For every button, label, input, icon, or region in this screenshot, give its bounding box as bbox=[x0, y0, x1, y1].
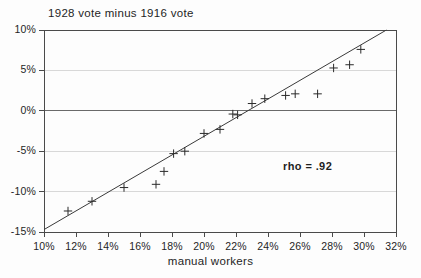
y-tick-label: 5% bbox=[2, 63, 36, 75]
y-tick-label: 10% bbox=[2, 23, 36, 35]
trend-line bbox=[44, 30, 386, 230]
data-point-marker bbox=[181, 147, 189, 155]
x-tick-label: 10% bbox=[27, 240, 61, 252]
data-point-marker bbox=[345, 61, 353, 69]
data-point-marker bbox=[329, 64, 337, 72]
data-point-marker bbox=[200, 129, 208, 137]
data-point-marker bbox=[216, 125, 224, 133]
x-tick-label: 22% bbox=[219, 240, 253, 252]
y-tick-label: -5% bbox=[2, 144, 36, 156]
x-tick-label: 16% bbox=[123, 240, 157, 252]
y-tick-label: -10% bbox=[2, 185, 36, 197]
chart-figure: 1928 vote minus 1916 vote 10%5%0%-5%-10%… bbox=[0, 0, 421, 278]
y-tick-label: 0% bbox=[2, 104, 36, 116]
data-point-marker bbox=[291, 90, 299, 98]
x-tick-label: 30% bbox=[347, 240, 381, 252]
data-point-marker bbox=[261, 94, 269, 102]
data-point-marker bbox=[160, 167, 168, 175]
x-tick-label: 28% bbox=[315, 240, 349, 252]
x-tick-label: 26% bbox=[283, 240, 317, 252]
y-axis-ticks bbox=[39, 30, 44, 232]
x-tick-label: 24% bbox=[251, 240, 285, 252]
data-point-marker bbox=[88, 197, 96, 205]
x-axis-title: manual workers bbox=[0, 255, 421, 267]
y-tick-label: -15% bbox=[2, 225, 36, 237]
data-point-marker bbox=[313, 90, 321, 98]
data-point-marker bbox=[152, 180, 160, 188]
correlation-annotation: rho = .92 bbox=[283, 160, 332, 172]
x-tick-label: 12% bbox=[59, 240, 93, 252]
data-point-marker bbox=[169, 149, 177, 157]
x-tick-label: 32% bbox=[379, 240, 413, 252]
regression-line bbox=[44, 30, 386, 230]
scatter-plot-canvas bbox=[0, 0, 421, 278]
data-point-marker bbox=[233, 111, 241, 119]
x-axis-ticks bbox=[44, 232, 396, 237]
x-tick-label: 18% bbox=[155, 240, 189, 252]
x-tick-label: 20% bbox=[187, 240, 221, 252]
data-point-marker bbox=[281, 91, 289, 99]
x-tick-label: 14% bbox=[91, 240, 125, 252]
